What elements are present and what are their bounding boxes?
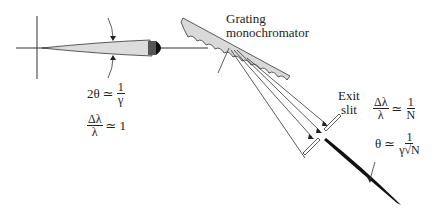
mono-bandwidth-equation: Δλλ ≃ 1N [373,96,416,121]
ray-arrowhead-icon [322,121,328,126]
eq-fraction: Δλλ [373,96,389,121]
angle-arrow-top [108,18,113,38]
eq-fraction: 1N [405,96,416,121]
grating-label-line1: Grating [226,12,266,26]
exit-label-line2: slit [341,103,357,117]
eq-lhs: 2θ [87,87,100,101]
undulator-beam-cone [42,40,152,56]
eq-op: ≃ [384,137,395,151]
arrowhead-top-icon [110,36,116,41]
diagram-canvas: Grating monochromator Exit slit 2θ ≃ 1γ … [0,0,436,217]
arrowhead-bottom-icon [110,55,116,60]
eq-lhs: θ [375,137,381,151]
ray-arrowhead-icon [308,134,314,139]
exit-label-line1: Exit [338,89,360,103]
angle-arrow-bottom [108,58,113,78]
eq-op: ≃ [106,119,117,133]
beam-tip [156,41,161,55]
ray-arrowhead-icon [316,128,322,133]
eq-fraction: Δλλ [87,113,103,138]
grating-label-line2: monochromator [226,26,309,40]
eq-fraction: 1γ [117,81,125,106]
eq-op: ≃ [392,102,403,116]
eq-op: ≃ [103,87,114,101]
eq-fraction: 1γ√N [398,131,421,156]
undulator-angle-equation: 2θ ≃ 1γ [87,81,125,106]
diagram-graphics [0,0,436,217]
undulator-bandwidth-equation: Δλλ ≃ 1 [87,113,126,138]
beam-pointer-arrow [370,162,375,180]
diffracted-rays [231,50,326,158]
eq-rhs: 1 [119,119,126,133]
mono-angle-equation: θ ≃ 1γ√N [375,131,421,156]
beam-band [148,41,156,55]
